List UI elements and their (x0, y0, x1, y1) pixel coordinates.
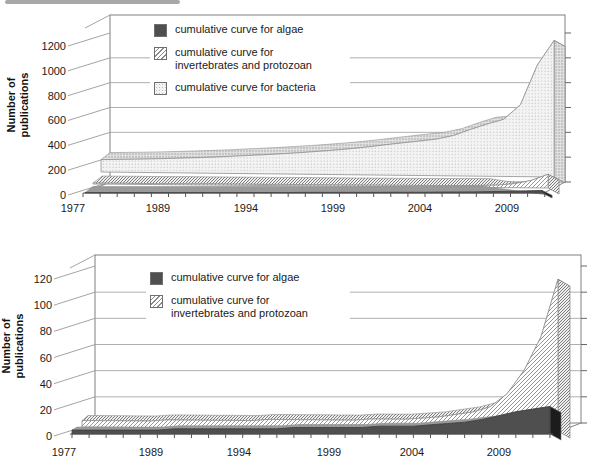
x-tick-label: 2004 (400, 446, 424, 458)
y-tick-label: 800 (48, 90, 66, 102)
legend-label-invertebrates-line1: cumulative curve for (175, 46, 273, 58)
x-tick-label: 1999 (321, 202, 345, 214)
y-tick-label: 20 (40, 404, 52, 416)
invertebrates-swatch-icon (150, 295, 163, 308)
legend-top-chart: cumulative curve for algae cumulative cu… (150, 21, 350, 99)
x-tick-label: 1989 (139, 446, 163, 458)
algae-swatch-icon (150, 272, 163, 285)
legend-label-invertebrates-line2: invertebrates and protozoan (171, 307, 308, 319)
y-tick-label: 600 (48, 114, 66, 126)
y-tick-label: 100 (34, 299, 52, 311)
y-tick-label: 400 (48, 139, 66, 151)
x-tick-label: 1999 (317, 446, 341, 458)
legend-label-invertebrates-line1: cumulative curve for (171, 294, 269, 306)
legend-label-invertebrates: cumulative curve for invertebrates and p… (175, 46, 312, 72)
y-tick-label: 1200 (42, 40, 66, 52)
legend-label-bacteria: cumulative curve for bacteria (175, 81, 316, 94)
y-axis-title-line1: Number of (5, 78, 17, 133)
x-axis: 197719891994199920042009 (61, 193, 545, 214)
y-axis-title-line1: Number of (0, 319, 12, 374)
y-axis-title-bottom: Number of publications (0, 281, 26, 411)
series-algae (85, 186, 552, 198)
x-tick-label: 1989 (146, 202, 170, 214)
x-tick-label: 1994 (227, 446, 251, 458)
y-tick-label: 80 (40, 325, 52, 337)
y-tick-label: 40 (40, 378, 52, 390)
y-tick-label: 0 (46, 430, 52, 442)
bacteria-swatch-icon (154, 82, 167, 95)
x-tick-label: 2009 (495, 202, 519, 214)
y-axis-title-top: Number of publications (5, 40, 31, 170)
legend-item-algae: cumulative curve for algae (154, 23, 344, 37)
y-axis-title-line2: publications (18, 73, 30, 138)
legend-item-invertebrates: cumulative curve for invertebrates and p… (150, 294, 344, 320)
legend-item-invertebrates: cumulative curve for invertebrates and p… (154, 46, 344, 72)
legend-bottom-chart: cumulative curve for algae cumulative cu… (146, 269, 350, 324)
y-tick-label: 0 (60, 189, 66, 201)
legend-label-algae: cumulative curve for algae (171, 271, 299, 284)
legend-label-invertebrates-line2: invertebrates and protozoan (175, 59, 312, 71)
y-axis-title-line2: publications (13, 314, 25, 379)
y-tick-label: 200 (48, 164, 66, 176)
legend-label-invertebrates: cumulative curve for invertebrates and p… (171, 294, 308, 320)
legend-label-algae: cumulative curve for algae (175, 23, 303, 36)
y-tick-label: 60 (40, 352, 52, 364)
algae-swatch-icon (154, 24, 167, 37)
x-tick-label: 2009 (487, 446, 511, 458)
x-tick-label: 1977 (52, 446, 76, 458)
x-tick-label: 1994 (234, 202, 258, 214)
legend-item-algae: cumulative curve for algae (150, 271, 344, 285)
legend-item-bacteria: cumulative curve for bacteria (154, 81, 344, 95)
y-tick-label: 120 (34, 273, 52, 285)
y-tick-label: 1000 (42, 65, 66, 77)
x-tick-label: 2004 (408, 202, 432, 214)
x-axis: 197719891994199920042009 (52, 434, 553, 458)
page: 0200400600800100012001977198919941999200… (0, 0, 595, 471)
x-tick-label: 1977 (61, 202, 85, 214)
invertebrates-swatch-icon (154, 47, 167, 60)
